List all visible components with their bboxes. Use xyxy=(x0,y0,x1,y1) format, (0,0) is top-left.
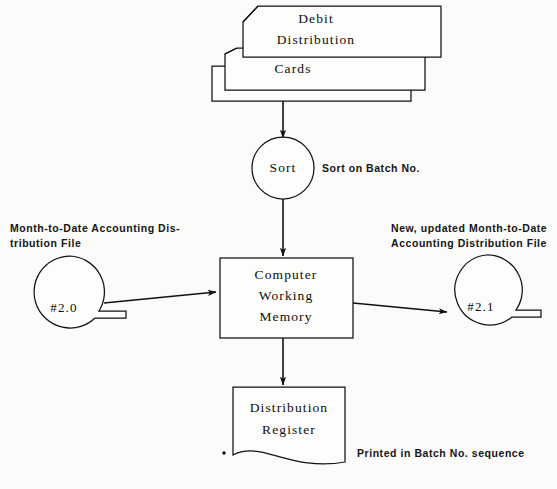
report-label-line1: Distribution xyxy=(250,400,328,415)
card-stack-front: Debit Distribution xyxy=(243,6,441,57)
output-tape-caption-line1: New, updated Month-to-Date xyxy=(391,222,547,234)
output-tape-label: #2.1 xyxy=(467,299,495,314)
sort-label: Sort xyxy=(270,160,297,175)
report-label-line2: Register xyxy=(262,422,316,437)
process-label-line1: Computer xyxy=(255,267,318,282)
card-label-cards: Cards xyxy=(275,61,312,76)
input-tape-node: #2.0 xyxy=(34,256,126,328)
sort-annotation: Sort on Batch No. xyxy=(322,162,420,174)
output-tape-node: #2.1 xyxy=(455,255,541,325)
connector-tape-to-process xyxy=(104,292,216,303)
process-node: Computer Working Memory xyxy=(220,258,353,338)
connector-process-to-tape xyxy=(353,303,447,312)
report-bullet-dot xyxy=(222,451,225,454)
report-annotation: Printed in Batch No. sequence xyxy=(357,447,525,459)
process-label-line2: Working xyxy=(259,288,314,303)
sort-node: Sort xyxy=(252,137,314,199)
input-tape-label: #2.0 xyxy=(50,300,78,315)
flowchart-diagram: Cards Debit Distribution Sort Sort on Ba… xyxy=(0,0,557,489)
process-label-line3: Memory xyxy=(259,309,312,324)
flowchart-canvas: Cards Debit Distribution Sort Sort on Ba… xyxy=(0,0,557,489)
input-tape-caption-line1: Month-to-Date Accounting Dis- xyxy=(10,222,180,234)
card-label-debit: Debit xyxy=(298,11,334,26)
input-tape-caption-line2: tribution File xyxy=(10,237,81,249)
report-node: Distribution Register xyxy=(233,387,345,464)
output-tape-caption-line2: Accounting Distribution File xyxy=(391,237,547,249)
card-label-distribution: Distribution xyxy=(277,32,355,47)
